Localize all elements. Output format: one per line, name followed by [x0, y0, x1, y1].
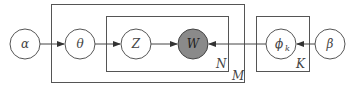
- node-phi-k: ϕ k: [266, 29, 296, 59]
- node-theta: θ: [65, 29, 95, 59]
- lda-plate-diagram: M N K α θ Z W ϕ k β: [0, 0, 352, 89]
- node-z: Z: [121, 29, 151, 59]
- plate-m-label: M: [231, 69, 245, 83]
- svg-text:θ: θ: [76, 37, 84, 51]
- plate-n-label: N: [215, 57, 227, 71]
- svg-text:Z: Z: [131, 37, 141, 51]
- svg-text:W: W: [187, 37, 201, 51]
- svg-text:α: α: [21, 37, 29, 51]
- node-beta: β: [315, 29, 345, 59]
- node-w-observed: W: [178, 29, 208, 59]
- svg-text:k: k: [285, 44, 290, 53]
- plate-k-label: K: [295, 57, 306, 71]
- svg-text:β: β: [326, 37, 334, 51]
- node-alpha: α: [10, 29, 40, 59]
- svg-text:ϕ: ϕ: [275, 37, 283, 51]
